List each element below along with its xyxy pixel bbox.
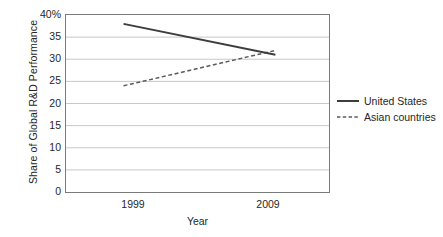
y-tick-label-25: 25	[33, 75, 61, 86]
series-line-asian-countries	[124, 50, 276, 85]
plot-area	[65, 14, 330, 193]
y-tick-label-15: 15	[33, 120, 61, 131]
y-tick-label-5: 5	[33, 164, 61, 175]
y-tick-label-0: 0	[33, 186, 61, 197]
legend-label-asian-countries: Asian countries	[364, 111, 436, 123]
legend-item-united-states: United States	[337, 93, 443, 109]
y-axis-tick-labels: 40% 35 30 25 20 15 10 5 0	[28, 0, 61, 237]
plot-svg	[66, 15, 329, 192]
y-tick-label-30: 30	[33, 53, 61, 64]
chart-legend: United States Asian countries	[337, 93, 443, 125]
solid-line-swatch	[337, 96, 359, 106]
series-line-united-states	[124, 24, 276, 55]
gridlines	[66, 37, 329, 170]
y-tick-label-35: 35	[33, 31, 61, 42]
y-tick-label-10: 10	[33, 142, 61, 153]
x-tick-label-1999: 1999	[103, 198, 163, 210]
y-tick-label-20: 20	[33, 98, 61, 109]
x-axis-title: Year	[65, 215, 330, 227]
x-tick-label-2009: 2009	[238, 198, 298, 210]
dashed-line-swatch	[337, 112, 359, 122]
y-tick-label-40: 40%	[33, 9, 61, 20]
legend-label-united-states: United States	[364, 95, 427, 107]
legend-item-asian-countries: Asian countries	[337, 109, 443, 125]
line-chart-figure: Share of Global R&D Performance 40% 35 3…	[0, 0, 443, 237]
